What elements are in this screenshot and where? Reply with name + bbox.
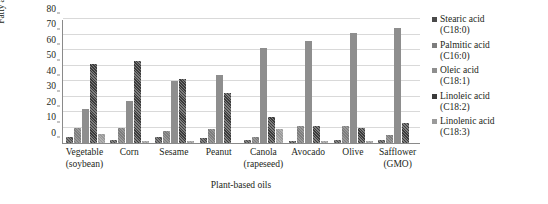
x-tick-label-line2: (rapeseed): [241, 159, 286, 171]
bar[interactable]: [208, 129, 215, 143]
legend-label-line2: (C18:2): [440, 102, 490, 113]
legend-swatch-icon: [432, 17, 437, 22]
y-tick-label: 50: [47, 51, 57, 61]
bar[interactable]: [118, 128, 125, 144]
bar[interactable]: [155, 137, 162, 143]
bar[interactable]: [224, 93, 231, 143]
bar[interactable]: [171, 81, 178, 143]
bar[interactable]: [358, 128, 365, 144]
bar-group: [63, 20, 108, 143]
legend-label: Stearic acid(C18:0): [440, 14, 485, 36]
bar[interactable]: [74, 128, 81, 144]
legend-swatch-icon: [432, 94, 437, 99]
x-tick-label: Corn: [107, 147, 152, 170]
y-tick-label: 20: [47, 98, 57, 108]
x-tick-label-line1: Avocado: [286, 147, 331, 159]
legend-item[interactable]: Stearic acid(C18:0): [432, 14, 544, 36]
y-tick-label: 30: [47, 82, 57, 92]
legend-item[interactable]: Linoleic acid(C18:2): [432, 91, 544, 113]
x-tick-label-line2: (soybean): [62, 159, 107, 171]
bar-group: [286, 20, 331, 143]
bar[interactable]: [321, 141, 328, 143]
y-tick-mark: [57, 90, 60, 91]
legend-label: Palmitic acid(C16:0): [440, 40, 490, 62]
bar[interactable]: [366, 141, 373, 143]
y-tick-label: 60: [47, 36, 57, 46]
bar[interactable]: [378, 140, 385, 143]
x-tick-label: Peanut: [196, 147, 241, 170]
x-tick-label-line1: Canola: [241, 147, 286, 159]
bar[interactable]: [216, 75, 223, 143]
x-tick-label: Olive: [331, 147, 376, 170]
bar[interactable]: [342, 126, 349, 143]
bar[interactable]: [289, 141, 296, 143]
legend-item[interactable]: Linolenic acid(C18:3): [432, 116, 544, 138]
legend-item[interactable]: Palmitic acid(C16:0): [432, 40, 544, 62]
bar[interactable]: [386, 135, 393, 143]
bar[interactable]: [66, 137, 73, 143]
bar[interactable]: [297, 126, 304, 143]
legend-swatch-icon: [432, 68, 437, 73]
legend-label-line1: Stearic acid: [440, 14, 485, 24]
plot-area: [62, 20, 420, 144]
bar[interactable]: [252, 137, 259, 143]
bar[interactable]: [163, 131, 170, 143]
bar[interactable]: [260, 48, 267, 143]
legend-label-line2: (C18:0): [440, 25, 485, 36]
legend-label: Oleic acid(C18:1): [440, 65, 479, 87]
gridline: [63, 18, 420, 19]
y-tick-label: 10: [47, 113, 57, 123]
y-tick-mark: [57, 59, 60, 60]
bar-group: [331, 20, 376, 143]
bar[interactable]: [268, 117, 275, 143]
bar[interactable]: [82, 109, 89, 143]
bar[interactable]: [334, 140, 341, 143]
x-tick-label: Safflower(GMO): [375, 147, 420, 170]
x-tick-label-line1: Peanut: [196, 147, 241, 159]
legend-label-line1: Linoleic acid: [440, 91, 490, 101]
bar[interactable]: [179, 79, 186, 143]
legend-swatch-icon: [432, 119, 437, 124]
y-tick-mark: [57, 28, 60, 29]
legend-label: Linolenic acid(C18:3): [440, 116, 495, 138]
legend-item[interactable]: Oleic acid(C18:1): [432, 65, 544, 87]
x-tick-label: Canola(rapeseed): [241, 147, 286, 170]
y-tick-label: 80: [47, 5, 57, 15]
y-tick-label: 0: [51, 129, 56, 139]
bar[interactable]: [276, 129, 283, 143]
x-axis-title: Plant-based oils: [62, 180, 420, 190]
bar[interactable]: [244, 140, 251, 143]
bar[interactable]: [90, 64, 97, 143]
y-tick-mark: [57, 13, 60, 14]
x-tick-label: Avocado: [286, 147, 331, 170]
bar[interactable]: [110, 140, 117, 143]
legend-label-line2: (C18:1): [440, 76, 479, 87]
x-tick-label: Vegetable(soybean): [62, 147, 107, 170]
x-tick-label-line1: Vegetable: [62, 147, 107, 159]
bar-groups: [63, 20, 420, 143]
bar[interactable]: [313, 126, 320, 143]
x-tick-label-line1: Sesame: [152, 147, 197, 159]
bar-chart-figure: Fatty acid percentage (%) 01020304050607…: [0, 0, 548, 204]
bar[interactable]: [200, 138, 207, 143]
bar[interactable]: [98, 134, 105, 143]
y-tick-mark: [57, 121, 60, 122]
bar[interactable]: [305, 41, 312, 143]
bar[interactable]: [187, 141, 194, 143]
y-axis-title: Fatty acid percentage (%): [0, 0, 6, 36]
x-axis-labels: Vegetable(soybean)CornSesamePeanutCanola…: [62, 147, 420, 170]
bar-group: [375, 20, 420, 143]
bar[interactable]: [350, 33, 357, 143]
y-tick-mark: [57, 44, 60, 45]
legend-label-line1: Palmitic acid: [440, 40, 490, 50]
bar[interactable]: [134, 61, 141, 143]
bar-group: [197, 20, 242, 143]
x-tick-label-line1: Safflower: [375, 147, 420, 159]
bar[interactable]: [142, 141, 149, 143]
legend-label-line2: (C16:0): [440, 51, 490, 62]
bar[interactable]: [394, 28, 401, 143]
y-tick-label: 70: [47, 20, 57, 30]
bar[interactable]: [402, 123, 409, 143]
legend-label-line1: Oleic acid: [440, 65, 479, 75]
bar[interactable]: [126, 101, 133, 143]
